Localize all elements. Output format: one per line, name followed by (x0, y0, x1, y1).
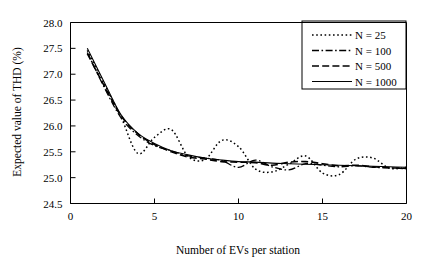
legend-entries: N = 25N = 100N = 500N = 1000 (312, 29, 397, 88)
legend-label-n-100: N = 100 (355, 45, 392, 57)
chart-figure: 05101520 24.525.025.526.026.527.027.528.… (0, 0, 428, 268)
y-tick-label: 25.5 (43, 146, 63, 158)
y-axis-tick-labels: 24.525.025.526.026.527.027.528.0 (43, 17, 63, 210)
y-axis-title: Expected value of THD (%) (11, 47, 24, 177)
y-axis-ticks (71, 23, 76, 204)
y-tick-label: 27.5 (43, 42, 63, 54)
legend-label-n-25: N = 25 (355, 29, 386, 41)
x-axis-title: Number of EVs per station (176, 244, 300, 257)
chart-legend: N = 25N = 100N = 500N = 1000 (302, 21, 406, 89)
y-tick-label: 25.0 (43, 172, 63, 184)
x-tick-label: 20 (401, 210, 413, 222)
y-tick-label: 26.5 (43, 94, 63, 106)
x-tick-label: 10 (233, 210, 245, 222)
x-axis-tick-labels: 05101520 (68, 210, 413, 222)
y-tick-label: 24.5 (43, 198, 63, 210)
legend-label-n-1000: N = 1000 (355, 76, 397, 88)
thd-line-chart: 05101520 24.525.025.526.026.527.027.528.… (0, 0, 428, 268)
y-tick-label: 26.0 (43, 120, 63, 132)
y-tick-label: 27.0 (43, 68, 63, 80)
x-tick-label: 5 (152, 210, 158, 222)
legend-label-n-500: N = 500 (355, 60, 392, 72)
x-tick-label: 0 (68, 210, 74, 222)
x-axis-ticks (71, 199, 407, 204)
y-tick-label: 28.0 (43, 17, 63, 29)
x-tick-label: 15 (317, 210, 329, 222)
